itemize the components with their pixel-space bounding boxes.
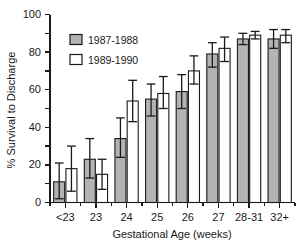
y-tick-label-40: 40 xyxy=(29,121,41,133)
x-tick-label-23: <23 xyxy=(56,211,75,223)
legend-label-1989-1990: 1989-1990 xyxy=(88,54,138,66)
y-tick-label-60: 60 xyxy=(29,83,41,95)
bar-32-1987-1988 xyxy=(268,39,279,203)
legend-label-1987-1988: 1987-1988 xyxy=(88,34,138,46)
y-axis-title: % Survival to Discharge xyxy=(5,52,17,169)
y-tick-label-20: 20 xyxy=(29,158,41,170)
x-tick-label-26: 26 xyxy=(182,211,194,223)
x-tick-label-25: 25 xyxy=(151,211,163,223)
bar-chart-figure: % Survival to Discharge 100 80 60 40 20 … xyxy=(0,0,308,245)
y-tick-label-0: 0 xyxy=(35,196,41,208)
legend-swatch-1989-1990 xyxy=(70,55,82,65)
bar-25-1989-1990 xyxy=(158,93,169,202)
x-tick-label-32: 32+ xyxy=(270,211,289,223)
legend-swatch-1987-1988 xyxy=(70,35,82,45)
bar-27-1989-1990 xyxy=(219,48,230,202)
x-tick-label-2831: 28-31 xyxy=(235,211,263,223)
x-tick-label-27: 27 xyxy=(212,211,224,223)
bar-27-1987-1988 xyxy=(207,54,218,203)
x-axis-title: Gestational Age (weeks) xyxy=(112,228,231,240)
y-tick-label-100: 100 xyxy=(23,8,41,20)
bar-2831-1989-1990 xyxy=(250,35,261,202)
x-tick-label-24: 24 xyxy=(120,211,132,223)
y-tick-label-80: 80 xyxy=(29,46,41,58)
bar-26-1989-1990 xyxy=(188,71,199,203)
survival-by-gestational-age-chart: % Survival to Discharge 100 80 60 40 20 … xyxy=(0,0,308,245)
bar-32-1989-1990 xyxy=(280,35,291,202)
bar-2831-1987-1988 xyxy=(237,39,248,203)
x-tick-label-23: 23 xyxy=(90,211,102,223)
